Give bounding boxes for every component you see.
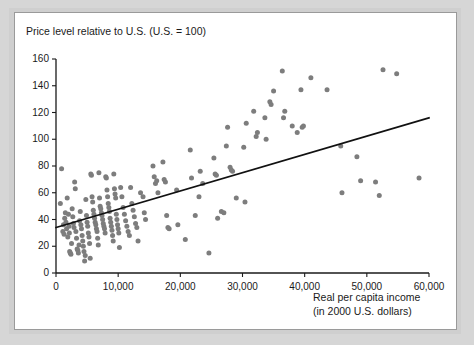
- scatter-point: [150, 164, 155, 169]
- scatter-point: [224, 143, 229, 148]
- scatter-point: [68, 252, 73, 257]
- scatter-point: [269, 102, 274, 107]
- scatter-point: [215, 216, 220, 221]
- y-tick-label: 160: [32, 53, 49, 64]
- scatter-point: [70, 206, 75, 211]
- scatter-point: [73, 229, 78, 234]
- x-tick-label: 20,000: [165, 281, 196, 292]
- scatter-point: [117, 245, 122, 250]
- x-tick-label: 0: [53, 281, 59, 292]
- scatter-point: [70, 214, 75, 219]
- scatter-point: [77, 242, 82, 247]
- scatter-point: [377, 193, 382, 198]
- scatter-point: [110, 233, 115, 238]
- scatter-point: [104, 176, 109, 181]
- scatter-point: [141, 194, 146, 199]
- scatter-point: [280, 69, 285, 74]
- scatter-point: [198, 169, 203, 174]
- scatter-point: [96, 170, 101, 175]
- x-tick-label: 30,000: [227, 281, 258, 292]
- scatter-point: [163, 180, 168, 185]
- scatter-point: [354, 154, 359, 159]
- scatter-point: [136, 238, 141, 243]
- scatter-point: [74, 236, 79, 241]
- scatter-point: [95, 229, 100, 234]
- scatter-point: [96, 242, 101, 247]
- y-tick-label: 60: [38, 187, 50, 198]
- scatter-point: [86, 234, 91, 239]
- scatter-point: [301, 123, 306, 128]
- scatter-point: [221, 210, 226, 215]
- scatter-point: [339, 190, 344, 195]
- scatter-point: [281, 115, 286, 120]
- scatter-point: [114, 217, 119, 222]
- scatter-point: [89, 173, 94, 178]
- scatter-point: [88, 256, 93, 261]
- scatter-point: [122, 212, 127, 217]
- scatter-point: [394, 71, 399, 76]
- scatter-point: [244, 121, 249, 126]
- scatter-point: [111, 172, 116, 177]
- scatter-point: [80, 233, 85, 238]
- scatter-point: [83, 197, 88, 202]
- scatter-points: [58, 67, 422, 263]
- scatter-point: [127, 233, 132, 238]
- scatter-point: [73, 186, 78, 191]
- scatter-point: [105, 194, 110, 199]
- scatter-point: [95, 236, 100, 241]
- scatter-point: [66, 212, 71, 217]
- scatter-point: [123, 218, 128, 223]
- scatter-point: [67, 230, 72, 235]
- scatter-point: [134, 225, 139, 230]
- chart-panel: Price level relative to U.S. (U.S. = 100…: [14, 12, 457, 330]
- y-tick-label: 0: [43, 267, 49, 278]
- scatter-point: [167, 226, 172, 231]
- scatter-point: [154, 178, 159, 183]
- x-axis-label-line2: (in 2000 U.S. dollars): [313, 305, 412, 317]
- figure-background: Price level relative to U.S. (U.S. = 100…: [0, 0, 474, 345]
- scatter-point: [72, 180, 77, 185]
- scatter-point: [143, 217, 148, 222]
- scatter-point: [119, 194, 124, 199]
- scatter-point: [142, 210, 147, 215]
- scatter-point: [381, 67, 386, 72]
- scatter-point: [230, 169, 235, 174]
- scatter-point: [308, 75, 313, 80]
- scatter-point: [225, 125, 230, 130]
- scatter-point: [234, 196, 239, 201]
- y-tick-label: 20: [38, 240, 50, 251]
- scatter-point: [242, 200, 247, 205]
- scatter-point: [211, 155, 216, 160]
- scatter-point: [196, 194, 201, 199]
- scatter-point: [65, 196, 70, 201]
- scatter-point: [69, 241, 74, 246]
- scatter-point: [214, 173, 219, 178]
- scatter-point: [188, 147, 193, 152]
- scatter-point: [118, 185, 123, 190]
- y-tick-label: 40: [38, 214, 50, 225]
- scatter-point: [79, 226, 84, 231]
- scatter-point: [80, 238, 85, 243]
- scatter-point: [83, 253, 88, 258]
- scatter-point: [189, 176, 194, 181]
- scatter-point: [116, 230, 121, 235]
- scatter-point: [183, 237, 188, 242]
- scatter-point: [206, 250, 211, 255]
- scatter-point: [82, 258, 87, 263]
- scatter-point: [59, 166, 64, 171]
- scatter-point: [111, 238, 116, 243]
- chart-title: Price level relative to U.S. (U.S. = 100…: [26, 25, 206, 37]
- scatter-point: [175, 222, 180, 227]
- scatter-point: [271, 89, 276, 94]
- y-tick-label: 100: [32, 133, 49, 144]
- y-tick-label: 120: [32, 107, 49, 118]
- scatter-point: [325, 87, 330, 92]
- scatter-point: [282, 109, 287, 114]
- x-axis-label-line1: Real per capita income: [313, 291, 421, 303]
- scatter-point: [103, 230, 108, 235]
- scatter-point: [131, 208, 136, 213]
- y-tick-label: 80: [38, 160, 50, 171]
- scatter-point: [241, 145, 246, 150]
- scatter-point: [132, 214, 137, 219]
- scatter-point: [128, 185, 133, 190]
